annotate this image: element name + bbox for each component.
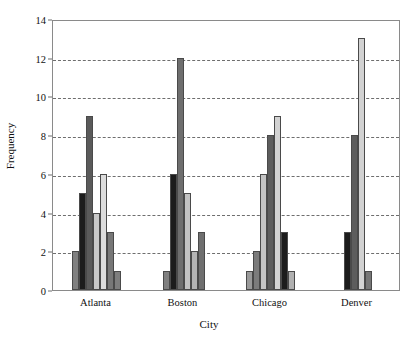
bar xyxy=(260,174,267,290)
x-axis-title-text: City xyxy=(200,318,219,330)
bar xyxy=(288,271,295,290)
x-axis-title: City xyxy=(0,318,418,330)
bar xyxy=(114,271,121,290)
x-tick-label: Denver xyxy=(341,297,372,308)
bar-group xyxy=(246,21,295,290)
bar-group xyxy=(344,21,372,290)
y-tick-label: 14 xyxy=(18,15,46,26)
bar xyxy=(72,251,79,290)
bar xyxy=(274,116,281,290)
bar xyxy=(267,135,274,290)
x-tick-label: Atlanta xyxy=(80,297,111,308)
y-tick-label: 8 xyxy=(18,131,46,142)
bar xyxy=(358,38,365,290)
bar xyxy=(177,58,184,290)
bar xyxy=(93,213,100,290)
y-tick-mark xyxy=(48,58,52,59)
y-tick-label: 4 xyxy=(18,208,46,219)
bar xyxy=(351,135,358,290)
bar xyxy=(344,232,351,290)
plot-area xyxy=(52,20,400,291)
bar xyxy=(365,271,372,290)
y-tick-label: 12 xyxy=(18,53,46,64)
y-tick-mark xyxy=(48,20,52,21)
bar-chart: Frequency 02468101214 AtlantaBostonChica… xyxy=(0,0,418,345)
bar xyxy=(163,271,170,290)
bar xyxy=(253,251,260,290)
bar xyxy=(170,174,177,290)
y-tick-label: 6 xyxy=(18,169,46,180)
x-tick-label: Boston xyxy=(168,297,198,308)
y-tick-mark xyxy=(48,213,52,214)
bar xyxy=(281,232,288,290)
bar xyxy=(246,271,253,290)
bar-group xyxy=(163,21,205,290)
y-tick-mark xyxy=(48,252,52,253)
y-tick-mark xyxy=(48,174,52,175)
bar xyxy=(184,193,191,290)
y-tick-mark xyxy=(48,136,52,137)
y-tick-label: 0 xyxy=(18,286,46,297)
y-tick-label: 10 xyxy=(18,92,46,103)
bar-group xyxy=(72,21,121,290)
y-axis-title-text: Frequency xyxy=(4,122,16,168)
y-tick-label: 2 xyxy=(18,247,46,258)
bar xyxy=(100,174,107,290)
bar xyxy=(79,193,86,290)
bar xyxy=(191,251,198,290)
bar xyxy=(107,232,114,290)
y-tick-mark xyxy=(48,291,52,292)
y-tick-mark xyxy=(48,97,52,98)
x-tick-label: Chicago xyxy=(252,297,287,308)
bar xyxy=(198,232,205,290)
bar xyxy=(86,116,93,290)
y-axis-title: Frequency xyxy=(2,0,18,291)
